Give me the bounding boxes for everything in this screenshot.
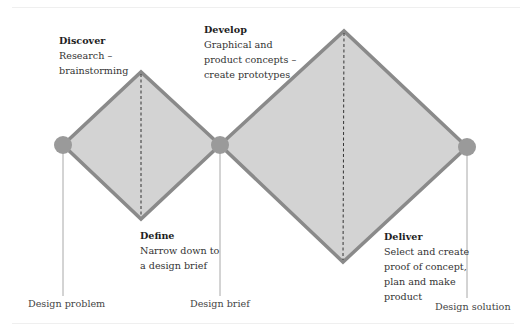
phase-description: Select and create bbox=[384, 244, 469, 259]
phase-develop: Develop Graphical and product concepts –… bbox=[204, 22, 296, 82]
phase-define: Define Narrow down to a design brief bbox=[140, 228, 219, 273]
phase-description: Graphical and bbox=[204, 37, 296, 52]
phase-description: product concepts – bbox=[204, 52, 296, 67]
phase-description: Narrow down to bbox=[140, 243, 219, 258]
node-design-brief bbox=[211, 136, 229, 154]
phase-description: plan and make bbox=[384, 274, 469, 289]
phase-description: proof of concept, bbox=[384, 259, 469, 274]
milestone-design-solution: Design solution bbox=[435, 301, 511, 312]
phase-description: Research – bbox=[59, 48, 128, 63]
phase-description: create prototypes bbox=[204, 67, 296, 82]
phase-description: a design brief bbox=[140, 258, 219, 273]
phase-title: Discover bbox=[59, 33, 128, 48]
phase-discover: Discover Research – brainstorming bbox=[59, 33, 128, 78]
node-design-solution bbox=[458, 138, 476, 156]
phase-title: Deliver bbox=[384, 229, 469, 244]
node-design-problem bbox=[54, 136, 72, 154]
bottom-divider bbox=[12, 323, 514, 324]
phase-title: Develop bbox=[204, 22, 296, 37]
phase-description: brainstorming bbox=[59, 63, 128, 78]
milestone-design-brief: Design brief bbox=[190, 298, 250, 309]
phase-title: Define bbox=[140, 228, 219, 243]
phase-deliver: Deliver Select and create proof of conce… bbox=[384, 229, 469, 304]
milestone-design-problem: Design problem bbox=[28, 298, 105, 309]
